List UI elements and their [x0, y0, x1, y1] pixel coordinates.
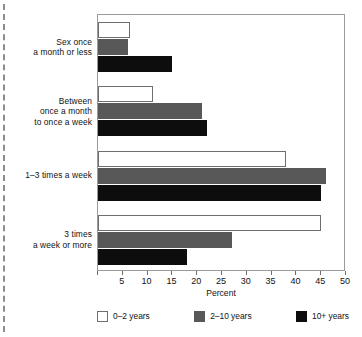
- white-outline-swatch-icon: [97, 311, 108, 322]
- x-tick-mark: [295, 271, 296, 275]
- category-label: Sex once a month or less: [0, 37, 98, 58]
- bar: [98, 22, 130, 38]
- x-tick-mark: [246, 271, 247, 275]
- bar-group: 1–3 times a week: [98, 144, 344, 208]
- x-tick-mark: [345, 271, 346, 275]
- x-tick-mark: [196, 271, 197, 275]
- bar: [98, 120, 207, 136]
- bar: [98, 56, 172, 72]
- category-label: 1–3 times a week: [0, 170, 98, 180]
- x-tick-mark: [320, 271, 321, 275]
- x-tick-mark: [122, 271, 123, 275]
- bar: [98, 185, 321, 201]
- category-label: 3 times a week or more: [0, 229, 98, 250]
- category-label: Between once a month to once a week: [0, 96, 98, 127]
- bar: [98, 103, 202, 119]
- bar: [98, 86, 153, 102]
- x-tick-label: 50: [330, 276, 360, 286]
- legend-label: 2–10 years: [210, 311, 251, 321]
- black-swatch-icon: [296, 311, 307, 322]
- bar-group: Between once a month to once a week: [98, 79, 344, 143]
- legend-item-0[interactable]: 0–2 years: [97, 311, 150, 322]
- horizontal-bar-chart: Sex once a month or lessBetween once a m…: [0, 0, 362, 337]
- x-tick-mark: [147, 271, 148, 275]
- bar: [98, 232, 232, 248]
- x-tick-mark: [271, 271, 272, 275]
- x-tick-mark: [221, 271, 222, 275]
- gray-swatch-icon: [194, 311, 205, 322]
- plot-area: Sex once a month or lessBetween once a m…: [97, 14, 345, 271]
- bar: [98, 151, 286, 167]
- chart-legend: 0–2 years 2–10 years 10+ years: [97, 308, 349, 324]
- x-tick-mark: [171, 271, 172, 275]
- x-tick-mark: [97, 271, 98, 275]
- bar: [98, 168, 326, 184]
- bar-group: Sex once a month or less: [98, 15, 344, 79]
- legend-item-2[interactable]: 10+ years: [296, 311, 349, 322]
- bar: [98, 39, 128, 55]
- legend-label: 10+ years: [312, 311, 349, 321]
- bar: [98, 215, 321, 231]
- legend-label: 0–2 years: [113, 311, 150, 321]
- x-axis-title: Percent: [97, 288, 345, 298]
- bar: [98, 249, 187, 265]
- bar-group: 3 times a week or more: [98, 208, 344, 272]
- legend-item-1[interactable]: 2–10 years: [194, 311, 251, 322]
